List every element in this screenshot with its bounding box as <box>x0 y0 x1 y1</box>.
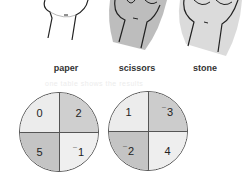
divider-horizontal <box>109 131 187 132</box>
quadrant-value: 4 <box>164 145 170 157</box>
spinner-1-quadrant-bottom-left: 5 <box>20 132 59 171</box>
spinner-2-quadrant-top-left: 1 <box>109 92 148 131</box>
negative-sign: ¯ <box>123 146 127 153</box>
paper-label: paper <box>36 63 96 73</box>
quadrant-value: 2 <box>128 145 134 157</box>
spinner-1: 0 2 5 ¯1 <box>19 92 99 172</box>
quadrant-value: 1 <box>125 106 131 118</box>
stone-label: stone <box>175 63 235 73</box>
spinner-1-quadrant-bottom-right: ¯1 <box>59 132 98 171</box>
quadrant-value: 3 <box>167 106 173 118</box>
quadrant-value: 2 <box>75 107 81 119</box>
scissors-label: scissors <box>107 63 167 73</box>
spinner-2-quadrant-bottom-left: ¯2 <box>109 131 148 170</box>
negative-sign: ¯ <box>73 147 77 154</box>
spinner-2: 1 ¯3 ¯2 4 <box>108 91 188 171</box>
scissors-hand-illustration <box>105 0 175 55</box>
spinner-2-quadrant-top-right: ¯3 <box>148 92 187 131</box>
paper-hand-illustration <box>30 0 100 55</box>
quadrant-value: 1 <box>78 146 84 158</box>
stone-hand-illustration <box>172 0 242 58</box>
divider-horizontal <box>20 132 98 133</box>
negative-sign: ¯ <box>162 107 166 114</box>
spinner-2-quadrant-bottom-right: 4 <box>148 131 187 170</box>
spinner-1-quadrant-top-left: 0 <box>20 93 59 132</box>
spinner-1-quadrant-top-right: 2 <box>59 93 98 132</box>
quadrant-value: 0 <box>36 107 42 119</box>
bleed-through-text: one table shows the results <box>45 80 143 87</box>
quadrant-value: 5 <box>36 146 42 158</box>
